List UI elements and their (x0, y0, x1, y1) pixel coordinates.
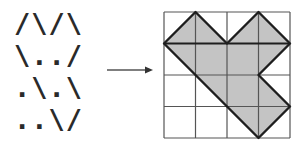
ascii-row-1: /\/\ (14, 8, 104, 40)
right-arrow-icon (107, 64, 155, 76)
ascii-row-2: \../ (14, 40, 104, 72)
ascii-row-3: .\.\ (14, 72, 104, 104)
ascii-pattern: /\/\ \../ .\.\ ..\/ (14, 8, 104, 136)
ascii-row-4: ..\/ (14, 104, 104, 136)
shape-grid (160, 8, 300, 142)
